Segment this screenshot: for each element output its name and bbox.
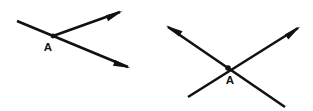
right-vertex-label: A <box>226 74 234 86</box>
left-angle-figure: A <box>17 11 130 68</box>
left-vertex-label: A <box>44 41 52 53</box>
right-line-northeast-arrowhead-icon <box>285 27 300 40</box>
left-upper-ray-arrowhead-icon <box>106 11 123 21</box>
right-line-northwest-arrowhead-icon <box>166 26 183 37</box>
left-vertex-point <box>51 34 56 39</box>
right-line-northeast <box>188 28 298 97</box>
diagram-svg: A A <box>0 0 313 111</box>
right-vertex-point <box>225 65 231 71</box>
right-crossing-figure: A <box>166 26 300 107</box>
left-lower-ray-arrowhead-icon <box>113 60 130 68</box>
diagram-canvas: A A <box>0 0 313 111</box>
